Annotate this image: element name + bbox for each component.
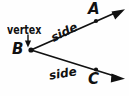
vertex-annotation-label: vertex (7, 24, 41, 36)
point-a-dot (94, 19, 98, 23)
angle-diagram-figure: A B C vertex side side (0, 0, 129, 96)
point-b-dot (28, 47, 33, 52)
ray-ba-arrowhead (112, 9, 126, 19)
point-label-b: B (12, 42, 23, 57)
ray-bc-arrowhead (111, 74, 125, 83)
vertex-callout-arrowhead (25, 41, 31, 48)
point-label-c: C (88, 72, 99, 87)
point-label-a: A (88, 2, 100, 17)
